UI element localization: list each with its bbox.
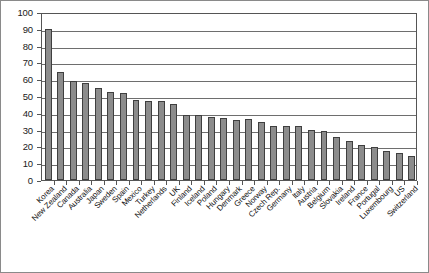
bar [208,117,215,180]
bar [358,145,365,180]
y-tick-label: 70 [23,59,33,69]
bar [270,126,277,180]
y-tick-label: 90 [23,25,33,35]
bar [195,115,202,180]
bar-series [42,14,416,180]
bar [295,126,302,180]
bar [170,104,177,180]
bar [183,115,190,180]
bar [321,131,328,180]
bar [220,118,227,180]
bar [158,101,165,180]
bar [396,153,403,180]
bar [133,100,140,180]
bar [346,141,353,180]
bar [308,130,315,180]
bar [371,147,378,180]
bar [145,101,152,180]
bar [70,81,77,180]
y-tick-label: 10 [23,159,33,169]
bar [82,83,89,180]
x-tick-mark [417,181,418,185]
y-tick-label: 100 [17,8,33,18]
bar [120,93,127,180]
bar [333,137,340,180]
y-tick-label: 30 [23,126,33,136]
y-tick-label: 0 [28,176,33,186]
bar [107,92,114,180]
bar-chart-figure: 0102030405060708090100 KoreaNew ZealandC… [0,0,429,273]
y-tick-label: 80 [23,42,33,52]
y-tick-label: 40 [23,109,33,119]
bar [383,151,390,180]
y-tick-label: 20 [23,143,33,153]
x-axis-category-labels: KoreaNew ZealandCanadaAustraliaJapanSwed… [41,185,417,273]
bar [233,120,240,180]
bar [283,126,290,180]
plot-area [41,13,417,181]
bar [57,72,64,180]
bar [408,156,415,180]
y-tick-label: 60 [23,75,33,85]
bar [245,119,252,180]
bar [95,88,102,180]
y-axis: 0102030405060708090100 [1,13,37,181]
y-tick-label: 50 [23,92,33,102]
bar [258,122,265,180]
bar [45,29,52,180]
